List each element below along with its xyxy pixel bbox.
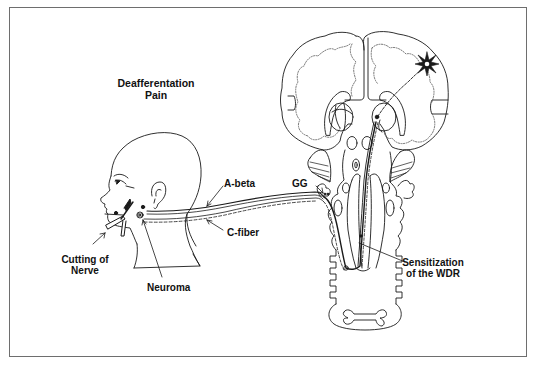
scissors-icon: [106, 199, 133, 236]
pain-star-icon: [415, 52, 439, 76]
label-gg: GG: [292, 178, 308, 189]
title-line-2: Pain: [116, 89, 196, 101]
brainstem-lobe: [398, 180, 414, 198]
cortex-dotted-lines: [296, 44, 435, 144]
cerebellum-left: [308, 150, 331, 182]
wdr-line-1: Sensitization: [402, 257, 464, 268]
brain-right-hemisphere: [364, 32, 449, 150]
cutting-line-2: Nerve: [60, 265, 110, 276]
nerve-end-dot: [141, 205, 144, 208]
neuroma-marker: [137, 212, 143, 218]
diagram-title: Deafferentation Pain: [116, 77, 196, 101]
label-a-beta: A-beta: [224, 178, 255, 189]
ear: [151, 182, 165, 209]
title-line-1: Deafferentation: [116, 77, 196, 89]
ventricle-arches: [325, 91, 406, 135]
cutting-line-1: Cutting of: [60, 254, 110, 265]
wdr-line-2: of the WDR: [402, 268, 464, 279]
diagram-artwork: [0, 0, 533, 368]
thalamus-left: [329, 103, 353, 131]
label-c-fiber: C-fiber: [227, 227, 259, 238]
label-neuroma: Neuroma: [147, 282, 190, 293]
cerebellum-right: [390, 150, 415, 182]
c-fiber: [144, 198, 324, 222]
label-sensitization-wdr: Sensitization of the WDR: [402, 257, 464, 279]
eye: [114, 174, 134, 188]
gasserian-ganglion: [317, 184, 330, 196]
trigeminal-pathway: [324, 115, 379, 270]
head-profile: [101, 133, 201, 268]
a-beta-fiber: [147, 192, 324, 214]
label-cutting-of-nerve: Cutting of Nerve: [60, 254, 110, 276]
spinal-cord: [329, 250, 402, 330]
